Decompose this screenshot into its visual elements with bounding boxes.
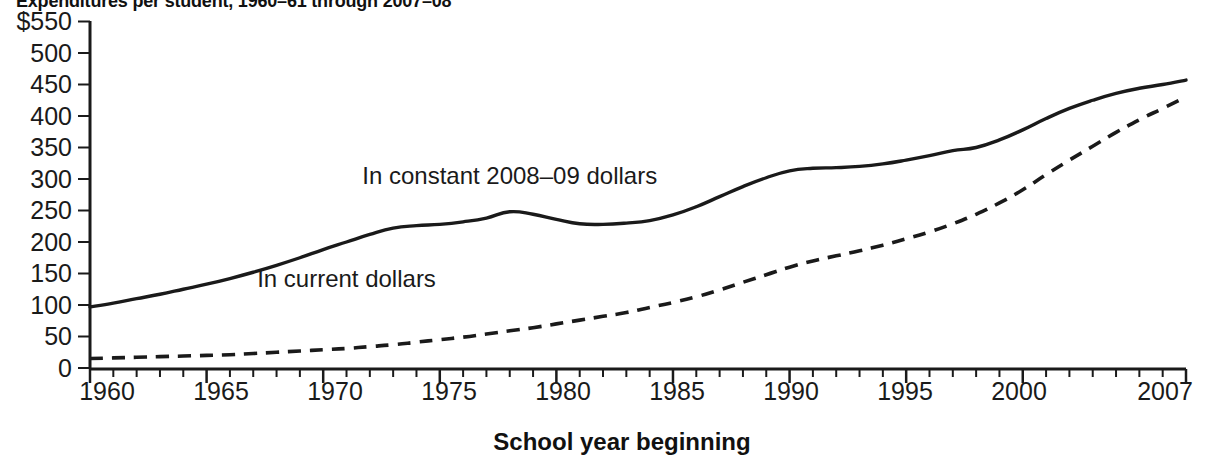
x-tick-label: 1990: [763, 377, 819, 405]
x-tick-label: 1975: [421, 377, 477, 405]
y-axis-tick-labels: $550 500 450 400 350 300 250 200 150 100…: [16, 7, 72, 382]
x-tick-label: 1985: [649, 377, 705, 405]
x-tick-label: 1970: [307, 377, 363, 405]
x-axis-tick-labels: 1960 1965 1970 1975 1980 1985 1990 1995 …: [79, 377, 1193, 405]
y-tick-label: 0: [58, 354, 72, 382]
series-label-constant-dollars: In constant 2008–09 dollars: [362, 162, 657, 189]
series-label-current-dollars: In current dollars: [257, 265, 436, 292]
y-tick-label: $550: [16, 7, 72, 35]
y-tick-label: 200: [30, 228, 72, 256]
x-tick-label: 1995: [877, 377, 933, 405]
y-tick-label: 500: [30, 39, 72, 67]
x-tick-label: 2000: [991, 377, 1047, 405]
x-tick-label: 1965: [193, 377, 249, 405]
y-tick-label: 400: [30, 102, 72, 130]
chart-container: Expenditures per student, 1960–61 throug…: [0, 0, 1218, 466]
y-tick-label: 100: [30, 291, 72, 319]
y-tick-label: 250: [30, 196, 72, 224]
x-axis-title: School year beginning: [493, 428, 750, 455]
x-tick-label: 1980: [535, 377, 591, 405]
series-line-current-dollars: [90, 97, 1186, 358]
y-tick-label: 350: [30, 133, 72, 161]
x-tick-label: 2007: [1137, 377, 1193, 405]
x-tick-label: 1960: [79, 377, 135, 405]
series-line-constant-dollars: [90, 80, 1186, 307]
y-tick-label: 50: [44, 322, 72, 350]
y-tick-label: 450: [30, 70, 72, 98]
y-tick-label: 300: [30, 165, 72, 193]
y-axis-ticks: [78, 22, 90, 369]
line-chart-plot: $550 500 450 400 350 300 250 200 150 100…: [0, 0, 1218, 466]
y-tick-label: 150: [30, 259, 72, 287]
